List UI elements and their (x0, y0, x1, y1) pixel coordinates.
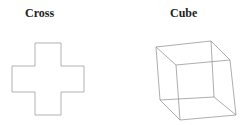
shapes-canvas (0, 0, 249, 125)
cross-shape (12, 43, 84, 115)
cube-shape (156, 41, 236, 120)
